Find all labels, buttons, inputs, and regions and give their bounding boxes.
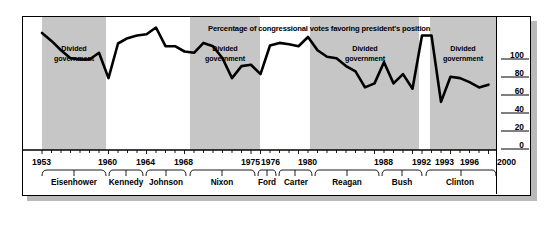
xtick-label-1953: 1953 (32, 157, 51, 167)
divided-government-line1: Divided (195, 44, 255, 54)
xtick-label-1960: 1960 (98, 157, 117, 167)
bracket-reagan (315, 170, 379, 176)
bracket-johnson (146, 170, 186, 176)
president-label-johnson: Johnson (141, 178, 191, 187)
divided-band-2 (190, 17, 260, 150)
xtick-label-1988: 1988 (374, 157, 393, 167)
ytick-label-60: 60 (502, 86, 524, 96)
ytick-label-0: 0 (502, 140, 524, 150)
bracket-eisenhower (42, 170, 106, 176)
divided-government-line2: government (44, 54, 104, 64)
data-line-presidential-support (42, 28, 489, 102)
president-label-bush: Bush (380, 178, 424, 187)
divided-government-line1: Divided (335, 44, 395, 54)
president-label-nixon: Nixon (198, 178, 246, 187)
president-label-reagan: Reagan (323, 178, 371, 187)
chart-figure: Percentage of congressional votes favori… (0, 0, 551, 228)
divided-band-3 (310, 17, 419, 150)
bracket-bush (382, 170, 422, 176)
bracket-ford (258, 170, 276, 176)
chart-frame: Percentage of congressional votes favori… (22, 16, 531, 196)
ytick-label-100: 100 (502, 50, 524, 60)
divided-government-label-2: Divided government (195, 44, 255, 63)
divided-government-line1: Divided (433, 44, 493, 54)
divided-band-4 (430, 17, 496, 150)
divided-government-line2: government (195, 54, 255, 64)
ytick-label-40: 40 (502, 104, 524, 114)
president-label-eisenhower: Eisenhower (44, 178, 104, 187)
president-label-clinton: Clinton (436, 178, 484, 187)
ytick-label-80: 80 (502, 68, 524, 78)
xtick-label-1968: 1968 (174, 157, 193, 167)
xtick-label-1975: 1975 (241, 157, 260, 167)
xtick-label-1992: 1992 (412, 157, 431, 167)
xtick-label-1993: 1993 (435, 157, 454, 167)
bracket-clinton (426, 170, 496, 176)
ytick-label-20: 20 (502, 122, 524, 132)
xtick-label-1980: 1980 (298, 157, 317, 167)
xtick-label-1964: 1964 (136, 157, 155, 167)
divided-government-line2: government (335, 54, 395, 64)
divided-government-label-3: Divided government (335, 44, 395, 63)
bracket-kennedy (109, 170, 143, 176)
president-label-carter: Carter (278, 178, 314, 187)
divided-government-label-1: Divided government (44, 44, 104, 63)
divided-band-1 (42, 17, 106, 150)
xtick-label-1976: 1976 (261, 157, 280, 167)
divided-government-label-4: Divided government (433, 44, 493, 63)
bracket-carter (279, 170, 312, 176)
xtick-label-1996: 1996 (460, 157, 479, 167)
divided-government-line1: Divided (44, 44, 104, 54)
chart-title: Percentage of congressional votes favori… (208, 24, 430, 33)
bracket-nixon (190, 170, 255, 176)
divided-government-line2: government (433, 54, 493, 64)
xtick-label-2000: 2000 (497, 157, 516, 167)
divided-government-bands (42, 17, 496, 150)
